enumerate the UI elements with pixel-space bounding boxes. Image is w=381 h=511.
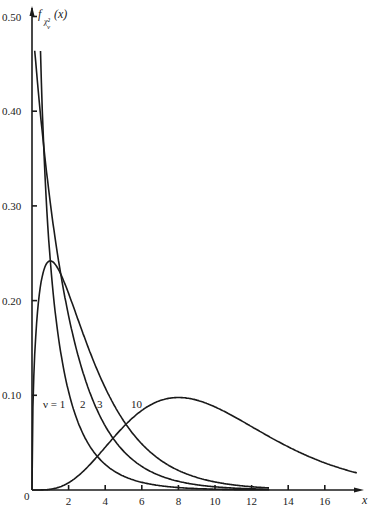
x-axis-title: x (361, 493, 368, 507)
x-tick-label: 2 (66, 495, 72, 507)
x-tick-label: 14 (283, 495, 295, 507)
svg-text:f: f (38, 7, 43, 21)
y-tick-label: 0.20 (2, 295, 22, 307)
chi-square-density-chart: 0.100.200.300.400.50 246810121416 0 f χ²… (0, 0, 381, 511)
axes (30, 6, 365, 493)
curve-label-nu10: 10 (131, 398, 143, 410)
density-curve-df-1 (41, 51, 270, 490)
x-axis-arrow-icon (354, 488, 364, 493)
density-curves (32, 51, 357, 490)
x-tick-label: 8 (176, 495, 182, 507)
y-tick-label: 0.10 (2, 389, 22, 401)
curve-label-nu1: ν = 1 (43, 398, 65, 410)
y-tick-label: 0.50 (2, 11, 22, 23)
x-tick-label: 10 (210, 495, 222, 507)
y-axis-title: f χ² ν (x) (38, 7, 67, 31)
curve-label-nu2: 2 (80, 398, 86, 410)
svg-text:(x): (x) (54, 7, 67, 21)
origin-label: 0 (24, 490, 30, 502)
y-axis-arrow-icon (30, 6, 35, 16)
curve-label-nu3: 3 (97, 398, 103, 410)
density-curve-df-2 (35, 51, 269, 490)
svg-text:ν: ν (47, 23, 51, 31)
y-tick-label: 0.30 (2, 200, 22, 212)
x-tick-label: 12 (246, 495, 257, 507)
x-tick-label: 16 (319, 495, 331, 507)
y-tick-label: 0.40 (2, 105, 22, 117)
density-curve-df-3 (32, 261, 269, 490)
x-tick-label: 6 (139, 495, 145, 507)
x-tick-label: 4 (102, 495, 108, 507)
